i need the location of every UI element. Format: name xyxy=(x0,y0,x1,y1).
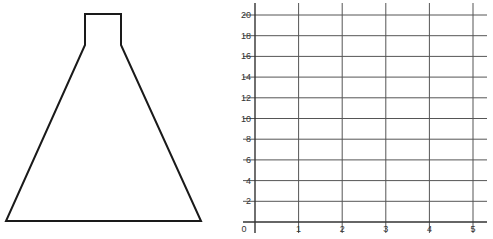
x-axis-tick-labels: 12345 xyxy=(296,224,475,234)
y-tick-label: 16 xyxy=(241,51,251,61)
x-tick-label: 4 xyxy=(427,224,432,234)
y-axis-tick-labels: 2468101214161820 xyxy=(241,10,251,206)
y-tick-label: 2 xyxy=(246,196,251,206)
y-tick-label: 20 xyxy=(241,10,251,20)
x-tick-label: 2 xyxy=(340,224,345,234)
y-tick-label: 18 xyxy=(241,31,251,41)
y-tick-label: 6 xyxy=(246,155,251,165)
y-tick-label: 8 xyxy=(246,134,251,144)
y-tick-label: 10 xyxy=(241,114,251,124)
y-tick-label: 12 xyxy=(241,93,251,103)
x-tick-label: 5 xyxy=(470,224,475,234)
empty-graph-grid: 2468101214161820 12345 0 xyxy=(0,0,493,239)
x-tick-label: 3 xyxy=(383,224,388,234)
origin-label: 0 xyxy=(241,224,246,234)
horizontal-gridlines xyxy=(243,15,487,201)
y-tick-label: 4 xyxy=(246,176,251,186)
y-tick-label: 14 xyxy=(241,72,251,82)
x-tick-label: 1 xyxy=(296,224,301,234)
